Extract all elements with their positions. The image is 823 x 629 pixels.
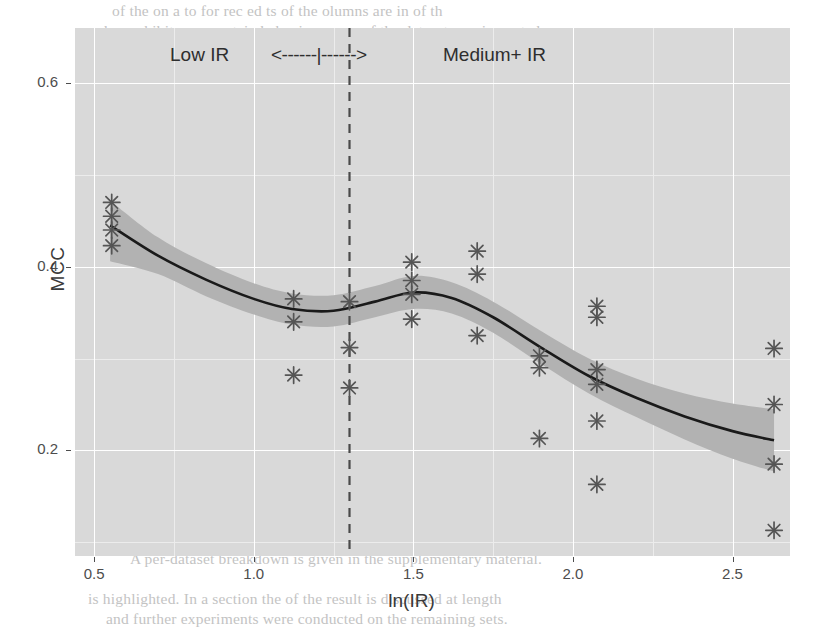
figure-container: Low IR <------|------> Medium+ IR 0.20.4… [0, 0, 823, 629]
data-point-asterisk [531, 360, 547, 376]
data-point-asterisk [766, 340, 782, 356]
data-point-asterisk [589, 413, 605, 429]
data-point-asterisk [404, 311, 420, 327]
x-tick-label: 0.5 [64, 565, 124, 582]
data-point-asterisk [341, 380, 357, 396]
data-point-asterisk [589, 476, 605, 492]
x-tick-label: 1.0 [224, 565, 284, 582]
y-tick-label: 0.6 [10, 73, 58, 90]
annotation-medium-ir: Medium+ IR [443, 44, 546, 66]
data-point-asterisk [285, 314, 301, 330]
data-point-asterisk [469, 327, 485, 343]
x-tick-mark [573, 557, 574, 562]
data-point-asterisk [285, 291, 301, 307]
x-axis-title: ln(IR) [0, 590, 823, 612]
data-point-asterisk [766, 396, 782, 412]
plot-graphics-layer [75, 28, 790, 556]
data-point-asterisk [589, 376, 605, 392]
data-point-asterisk [531, 430, 547, 446]
x-tick-label: 2.5 [703, 565, 763, 582]
x-tick-mark [94, 557, 95, 562]
y-tick-mark [66, 450, 71, 451]
x-tick-mark [254, 557, 255, 562]
data-point-asterisk [469, 243, 485, 259]
data-point-asterisk [766, 456, 782, 472]
data-point-asterisk [341, 293, 357, 309]
data-point-asterisk [404, 286, 420, 302]
y-axis-title: MCC [47, 209, 69, 329]
x-tick-mark [413, 557, 414, 562]
x-tick-label: 1.5 [383, 565, 443, 582]
data-point-asterisk [404, 254, 420, 270]
data-point-asterisk [104, 222, 120, 238]
data-point-asterisk [766, 522, 782, 538]
annotation-low-ir: Low IR [170, 44, 229, 66]
data-point-asterisk [285, 367, 301, 383]
y-tick-mark [66, 83, 71, 84]
plot-panel: Low IR <------|------> Medium+ IR [75, 28, 790, 556]
x-tick-mark [733, 557, 734, 562]
data-point-asterisk [104, 237, 120, 253]
data-point-asterisk [469, 266, 485, 282]
y-tick-label: 0.2 [10, 440, 58, 457]
data-point-asterisk [341, 339, 357, 355]
data-point-group [104, 194, 783, 538]
x-tick-label: 2.0 [543, 565, 603, 582]
confidence-band [110, 201, 774, 472]
annotation-arrow-span: <------|------> [271, 44, 367, 66]
data-point-asterisk [589, 309, 605, 325]
